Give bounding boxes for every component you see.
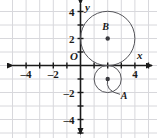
center-point-a (106, 77, 110, 81)
y-axis-label: y (83, 1, 90, 13)
y-tick-label: –4 (63, 114, 76, 126)
x-tick-label: 4 (132, 68, 138, 80)
y-tick-label: 4 (69, 6, 75, 18)
coordinate-plane-figure: –4–2442–2–4 BA O x y (0, 0, 157, 138)
center-point-b (106, 36, 110, 40)
x-tick-label: –4 (20, 68, 33, 80)
y-tick-label: 2 (69, 33, 75, 45)
x-axis-label: x (136, 49, 143, 61)
coordinate-plane-svg: –4–2442–2–4 BA O x y (0, 0, 157, 138)
circle-label-a: A (120, 90, 128, 101)
y-tick-label: –2 (63, 87, 76, 99)
origin-label: O (70, 50, 78, 62)
x-tick-label: –2 (47, 68, 60, 80)
circle-label-b: B (101, 21, 109, 32)
